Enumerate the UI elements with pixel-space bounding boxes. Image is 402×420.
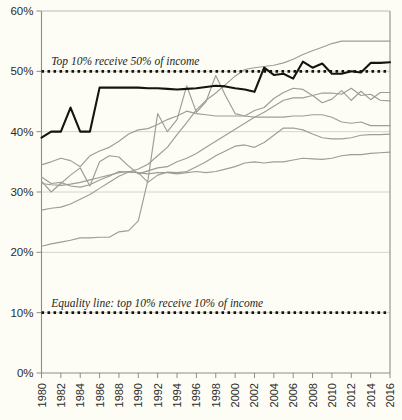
chart-annotations: Top 10% receive 50% of incomeEquality li… [50,55,263,309]
x-tick-label-1994: 1994 [171,383,183,407]
x-tick-label-2010: 2010 [326,383,338,407]
x-tick-label-2002: 2002 [248,383,260,407]
y-tick-label-10: 10% [10,307,33,319]
series-line-grey-series-3 [42,88,391,192]
x-tick-label-2004: 2004 [268,383,280,407]
highlighted-series-line [42,62,391,138]
x-tick-label-1988: 1988 [113,383,125,407]
annotation-top-annotation: Top 10% receive 50% of income [51,55,199,68]
y-tick-label-60: 60% [10,5,33,17]
x-tick-label-2006: 2006 [287,383,299,407]
x-axis-ticks: 1980198219841986198819901992199419961998… [36,373,397,407]
x-tick-label-1990: 1990 [132,383,144,407]
x-tick-label-2012: 2012 [345,383,357,407]
x-tick-label-2014: 2014 [365,383,377,407]
x-tick-label-2008: 2008 [307,383,319,407]
y-tick-label-40: 40% [10,126,33,138]
y-tick-label-20: 20% [10,246,33,258]
x-tick-label-1980: 1980 [36,383,48,407]
series-line-highlighted-series [42,62,391,138]
annotation-equality-annotation: Equality line: top 10% receive 10% of in… [50,297,263,310]
x-tick-label-1996: 1996 [190,383,202,407]
chart-canvas: 0%10%20%30%40%50%60% 1980198219841986198… [0,0,402,420]
y-tick-label-0: 0% [17,367,34,379]
x-tick-label-2016: 2016 [384,383,396,407]
y-axis-ticks: 0%10%20%30%40%50%60% [10,5,41,379]
y-tick-label-50: 50% [10,65,33,77]
x-tick-label-1982: 1982 [55,383,67,407]
series-line-grey-series-6 [42,152,391,185]
series-line-grey-series-2 [42,76,391,247]
x-tick-label-1984: 1984 [74,383,86,407]
x-tick-label-1998: 1998 [210,383,222,407]
x-tick-label-2000: 2000 [229,383,241,407]
series-line-grey-series-5 [42,128,391,187]
y-tick-label-30: 30% [10,186,33,198]
x-tick-label-1986: 1986 [94,383,106,407]
income-share-line-chart: 0%10%20%30%40%50%60% 1980198219841986198… [0,0,402,420]
x-tick-label-1992: 1992 [152,383,164,407]
